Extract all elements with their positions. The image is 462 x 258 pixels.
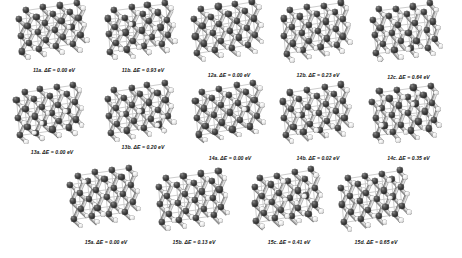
structure-caption-11a: 11a. ΔE = 0.00 eV: [33, 68, 75, 73]
structure-cell-12c: 12c. ΔE = 0.64 eV: [361, 4, 456, 86]
structure-cell-15b: 15b. ΔE = 0.13 eV: [148, 172, 240, 250]
structure-caption-12a: 12a. ΔE = 0.00 eV: [208, 73, 251, 78]
structure-caption-15d: 15d. ΔE = 0.65 eV: [355, 240, 398, 245]
structure-render-14c: [361, 86, 456, 166]
structure-cell-13b: 13b. ΔE = 0.20 eV: [97, 86, 189, 162]
structure-render-14b: [272, 86, 364, 166]
structure-caption-13b: 13b. ΔE = 0.20 eV: [122, 145, 165, 150]
structure-caption-15b: 15b. ΔE = 0.13 eV: [173, 240, 216, 245]
structure-caption-15c: 15c. ΔE = 0.41 eV: [268, 240, 311, 245]
structure-caption-15a: 15a. ΔE = 0.00 eV: [85, 240, 128, 245]
structure-figure-panel: 11a. ΔE = 0.00 eV 11b. ΔE = 0.93 eV 12a.…: [0, 0, 462, 258]
structure-cell-15d: 15d. ΔE = 0.65 eV: [330, 172, 422, 250]
structure-cell-14c: 14c. ΔE = 0.35 eV: [361, 86, 456, 166]
structure-cell-14b: 14b. ΔE = 0.02 eV: [272, 86, 364, 166]
structure-caption-14c: 14c. ΔE = 0.35 eV: [387, 156, 430, 161]
structure-caption-11b: 11b. ΔE = 0.93 eV: [122, 68, 164, 73]
structure-cell-12a: 12a. ΔE = 0.00 eV: [183, 4, 275, 84]
structure-cell-11b: 11b. ΔE = 0.93 eV: [97, 6, 189, 80]
structure-render-13b: [97, 86, 189, 162]
structure-cell-15a: 15a. ΔE = 0.00 eV: [60, 168, 152, 250]
structure-cell-11a: 11a. ΔE = 0.00 eV: [8, 6, 100, 80]
structure-render-14a: [184, 86, 276, 166]
structure-render-15a: [60, 168, 152, 250]
structure-cell-14a: 14a. ΔE = 0.00 eV: [184, 86, 276, 166]
structure-caption-12b: 12b. ΔE = 0.23 eV: [297, 73, 340, 78]
structure-caption-13a: 13a. ΔE = 0.00 eV: [31, 150, 74, 155]
structure-cell-13a: 13a. ΔE = 0.00 eV: [6, 86, 98, 162]
structure-caption-14a: 14a. ΔE = 0.00 eV: [209, 156, 252, 161]
structure-cell-12b: 12b. ΔE = 0.23 eV: [272, 4, 364, 84]
structure-caption-12c: 12c. ΔE = 0.64 eV: [387, 75, 430, 80]
structure-cell-15c: 15c. ΔE = 0.41 eV: [243, 172, 335, 250]
structure-caption-14b: 14b. ΔE = 0.02 eV: [297, 156, 340, 161]
